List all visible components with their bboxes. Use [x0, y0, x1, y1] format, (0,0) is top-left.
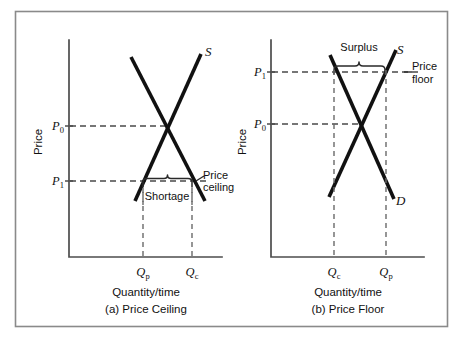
panel-a-x-axis-label: Quantity/time: [112, 286, 180, 298]
panel-a-shortage-label: Shortage: [145, 190, 190, 202]
panel-b-floor-label-line1: Price: [412, 60, 437, 72]
panel-b-floor-label-line2: floor: [412, 73, 434, 85]
panel-a-ceiling-label-line1: Price: [203, 169, 228, 181]
panel-b-x-axis-label: Quantity/time: [314, 286, 382, 298]
economics-figure: Price P0 P1 S Shortage Price ceiling Qp …: [0, 0, 462, 340]
panel-b-y-axis-label: Price: [236, 129, 248, 155]
panel-a-caption: (a) Price Ceiling: [105, 303, 187, 315]
panel-b-caption: (b) Price Floor: [312, 303, 385, 315]
panel-a-y-axis-label: Price: [32, 129, 44, 155]
panel-b-demand-label: D: [395, 193, 406, 208]
panel-a-supply-label: S: [205, 44, 212, 59]
panel-a-ceiling-label-line2: ceiling: [203, 181, 234, 193]
panel-b-supply-label: S: [397, 42, 404, 57]
figure-border: [16, 12, 448, 327]
supply-demand-figure-svg: Price P0 P1 S Shortage Price ceiling Qp …: [0, 0, 462, 340]
panel-b-surplus-label: Surplus: [340, 41, 378, 53]
